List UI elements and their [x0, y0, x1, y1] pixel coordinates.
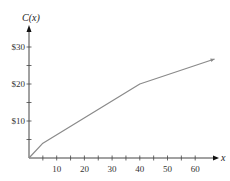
y-tick-label: $20 — [12, 79, 26, 89]
x-axis-title: x — [220, 152, 226, 163]
x-tick-label: 50 — [163, 164, 173, 174]
series-layer — [29, 59, 215, 158]
x-tick-label: 30 — [108, 164, 118, 174]
y-axis: $10$20$30 — [12, 25, 32, 158]
x-axis-arrow-icon — [213, 156, 219, 161]
x-tick-label: 60 — [191, 164, 201, 174]
x-tick-label: 20 — [80, 164, 90, 174]
y-tick-label: $10 — [12, 116, 26, 126]
chart: $10$20$30 102030405060 C(x) x — [0, 0, 230, 181]
x-tick-label: 10 — [52, 164, 62, 174]
y-axis-title: C(x) — [22, 12, 40, 24]
cost-function-line — [29, 59, 215, 158]
y-tick-label: $30 — [12, 42, 26, 52]
line-end-arrow-icon — [210, 59, 214, 62]
x-axis: 102030405060 — [29, 156, 219, 175]
x-tick-label: 40 — [135, 164, 145, 174]
y-axis-arrow-icon — [27, 25, 32, 32]
